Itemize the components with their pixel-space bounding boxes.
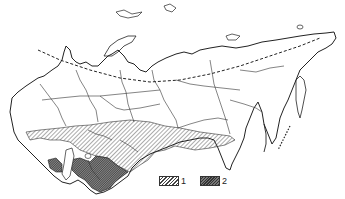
legend-item-1: 1 bbox=[159, 176, 186, 186]
severnaya-zemlya bbox=[164, 4, 176, 12]
arctic-circle bbox=[38, 38, 320, 82]
kuril-islands bbox=[278, 126, 290, 150]
legend-item-2: 2 bbox=[200, 176, 227, 186]
aral-sea bbox=[85, 154, 91, 159]
novaya-zemlya bbox=[104, 36, 136, 56]
wrangel-island bbox=[297, 25, 303, 29]
legend-label-1: 1 bbox=[181, 176, 186, 186]
map-canvas bbox=[0, 0, 345, 199]
franz-josef-land bbox=[116, 10, 142, 18]
legend: 1 2 bbox=[159, 176, 237, 186]
legend-label-2: 2 bbox=[222, 176, 227, 186]
legend-swatch-hatched bbox=[159, 176, 179, 186]
kamchatka bbox=[296, 76, 306, 118]
zone-2-dense-west bbox=[48, 158, 62, 172]
new-siberian-islands bbox=[226, 34, 240, 40]
caspian-sea bbox=[62, 148, 74, 180]
legend-swatch-dense bbox=[200, 176, 220, 186]
